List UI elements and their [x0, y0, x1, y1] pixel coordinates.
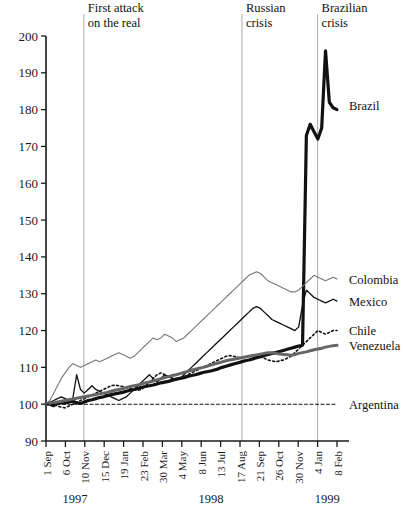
series-line-brazil — [46, 51, 337, 406]
y-tick-label-190: 190 — [19, 65, 39, 80]
x-tick-label-1: 6 Oct — [60, 451, 72, 475]
annotation-label-2-line1: Brazilian — [322, 1, 369, 15]
x-tick-label-3: 15 Dec — [99, 451, 111, 483]
y-tick-label-180: 180 — [19, 102, 39, 117]
year-label-1997: 1997 — [63, 492, 88, 506]
x-tick-label-2: 10 Nov — [79, 451, 91, 484]
y-tick-label-100: 100 — [19, 397, 39, 412]
y-tick-label-120: 120 — [19, 323, 39, 338]
series-label-mexico: Mexico — [349, 295, 387, 309]
y-tick-label-140: 140 — [19, 249, 39, 264]
x-tick-label-9: 13 Jul — [215, 451, 227, 478]
x-tick-label-10: 17 Aug — [235, 451, 247, 484]
annotation-label-0-line2: on the real — [88, 16, 141, 30]
annotation-label-1-line1: Russian — [246, 1, 286, 15]
x-tick-label-11: 21 Sep — [254, 451, 266, 482]
x-tick-label-8: 8 Jun — [196, 451, 208, 475]
x-tick-label-7: 4 May — [176, 451, 188, 480]
annotation-label-0-line1: First attack — [88, 1, 145, 15]
series-label-colombia: Colombia — [349, 273, 399, 287]
x-tick-label-0: 1 Sep — [41, 451, 53, 476]
economic-indices-line-chart: First attackon the realRussiancrisisBraz… — [0, 0, 412, 509]
y-tick-label-160: 160 — [19, 176, 39, 191]
x-tick-label-14: 4 Jan — [312, 451, 324, 474]
chart-canvas: First attackon the realRussiancrisisBraz… — [0, 0, 412, 509]
y-tick-label-90: 90 — [25, 434, 38, 449]
y-tick-label-110: 110 — [19, 360, 38, 375]
series-label-chile: Chile — [349, 324, 377, 338]
annotation-label-1-line2: crisis — [246, 16, 273, 30]
y-tick-label-200: 200 — [19, 29, 39, 44]
x-tick-label-13: 30 Nov — [293, 451, 305, 484]
x-tick-label-4: 19 Jan — [118, 451, 130, 480]
x-tick-label-6: 30 Mar — [157, 451, 169, 483]
annotation-label-2-line2: crisis — [322, 16, 349, 30]
series-label-venezuela: Venezuela — [349, 339, 401, 353]
series-label-argentina: Argentina — [349, 398, 399, 412]
y-tick-label-170: 170 — [19, 139, 39, 154]
y-tick-label-130: 130 — [19, 286, 39, 301]
series-label-brazil: Brazil — [349, 99, 380, 113]
year-label-1998: 1998 — [198, 492, 223, 506]
x-tick-label-12: 26 Oct — [273, 451, 285, 481]
series-line-colombia — [46, 272, 337, 405]
x-tick-label-15: 8 Feb — [332, 451, 344, 476]
x-tick-label-5: 23 Feb — [138, 451, 150, 482]
year-label-1999: 1999 — [315, 492, 340, 506]
y-tick-label-150: 150 — [19, 213, 39, 228]
